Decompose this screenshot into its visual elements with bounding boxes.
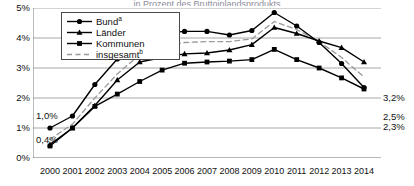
data-point — [272, 10, 277, 15]
data-point — [182, 29, 187, 34]
legend-label: insgesamtb — [96, 49, 143, 60]
x-axis-tick-label: 2013 — [332, 166, 352, 176]
x-axis-tick-label: 2002 — [85, 166, 105, 176]
legend-item-insgesamt: insgesamtb — [66, 49, 175, 60]
x-axis-tick-label: 2001 — [62, 166, 82, 176]
y-axis-tick-label: 3% — [16, 63, 30, 73]
data-point — [294, 23, 299, 28]
data-point — [70, 126, 75, 131]
data-point — [227, 32, 232, 37]
y-axis-tick-label: 0% — [16, 153, 30, 163]
y-axis-tick-label: 2% — [16, 93, 30, 103]
data-point — [137, 79, 142, 84]
chart-title-cropped: … in Prozent des Bruttoinlandsprodukts … — [0, 0, 414, 6]
data-point — [77, 41, 82, 46]
annotation-end-kommunen: 2,3% — [383, 122, 405, 132]
x-axis-tick-label: 2003 — [107, 166, 127, 176]
x-axis-tick-label: 2009 — [242, 166, 262, 176]
data-point — [272, 47, 277, 52]
annotation-start-kommunen: 0,4% — [36, 135, 58, 145]
data-point — [182, 61, 187, 66]
x-axis-tick-label: 2006 — [175, 166, 195, 176]
x-axis-labels: 2000200120022003200420052006200720082009… — [33, 166, 381, 182]
data-point — [271, 24, 277, 29]
legend-label: Länder — [96, 27, 126, 38]
legend-marker-circle-icon — [66, 16, 93, 27]
data-point — [317, 66, 322, 71]
chart-legend: BundaLänderKommuneninsgesamtb — [61, 12, 180, 60]
data-point — [339, 76, 344, 81]
y-axis-tick-label: 4% — [16, 33, 30, 43]
data-point — [160, 68, 165, 73]
legend-item-laender: Länder — [66, 27, 175, 38]
x-axis-tick-label: 2010 — [264, 166, 284, 176]
y-axis-tick-label: 5% — [16, 3, 30, 13]
data-point — [249, 28, 254, 33]
legend-label: Kommunen — [96, 38, 145, 49]
legend-footnote-marker: b — [139, 48, 143, 55]
data-point — [362, 87, 367, 92]
x-axis-tick-label: 2007 — [197, 166, 217, 176]
data-point — [294, 57, 299, 62]
x-axis-tick-label: 2004 — [130, 166, 150, 176]
legend-item-bund: Bunda — [66, 16, 175, 27]
y-axis-labels: 0%1%2%3%4%5% — [0, 0, 33, 186]
annotation-start-bund: 1,0% — [36, 111, 58, 121]
chart-container: … in Prozent des Bruttoinlandsprodukts …… — [0, 0, 414, 186]
legend-label: Bunda — [96, 16, 122, 27]
data-point — [77, 19, 82, 24]
x-axis-tick-label: 2000 — [40, 166, 60, 176]
x-axis-tick-label: 2014 — [354, 166, 374, 176]
legend-marker-square-icon — [66, 38, 93, 49]
data-point — [361, 59, 367, 64]
data-point — [204, 29, 209, 34]
annotation-end-laender: 3,2% — [383, 93, 405, 103]
data-point — [115, 92, 120, 97]
x-axis-tick-label: 2008 — [219, 166, 239, 176]
y-axis-tick-label: 1% — [16, 123, 30, 133]
data-point — [227, 59, 232, 64]
data-point — [70, 113, 75, 118]
x-axis-tick-label: 2005 — [152, 166, 172, 176]
x-axis-tick-label: 2012 — [309, 166, 329, 176]
legend-marker-triangle-icon — [66, 27, 93, 38]
data-point — [205, 60, 210, 65]
data-point — [249, 57, 254, 62]
data-point — [92, 82, 97, 87]
data-point — [47, 125, 52, 130]
legend-item-kommunen: Kommunen — [66, 38, 175, 49]
data-point — [339, 61, 344, 66]
legend-marker-none-icon — [66, 49, 93, 60]
legend-footnote-marker: a — [118, 15, 122, 22]
x-axis-tick-label: 2011 — [287, 166, 306, 176]
data-point — [92, 104, 97, 109]
